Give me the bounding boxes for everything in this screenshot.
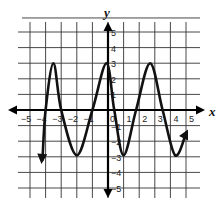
x-axis-right-arrow-icon — [196, 106, 205, 115]
y-tick-label: −4 — [111, 168, 121, 178]
x-tick-label: 1 — [127, 114, 132, 124]
x-tick-label: −3 — [52, 114, 62, 124]
y-tick-label: −5 — [111, 184, 121, 194]
axes — [8, 22, 205, 198]
x-tick-label: −2 — [68, 114, 78, 124]
x-axis-left-arrow-icon — [8, 106, 17, 115]
y-tick-label: 4 — [111, 44, 116, 54]
x-axis-label: x — [208, 104, 216, 119]
y-axis-label: y — [102, 5, 110, 20]
y-tick-label: 3 — [111, 59, 116, 69]
x-tick-label: −5 — [21, 114, 31, 124]
sine-graph: −5−4−3−2−101234554321−1−2−3−4−5 x y — [0, 0, 224, 206]
x-tick-label: 2 — [142, 114, 147, 124]
y-tick-label: 5 — [111, 28, 116, 38]
x-tick-label: 4 — [173, 114, 178, 124]
x-tick-label: 3 — [158, 114, 163, 124]
y-tick-label: −3 — [111, 153, 121, 163]
x-tick-label: 5 — [189, 114, 194, 124]
